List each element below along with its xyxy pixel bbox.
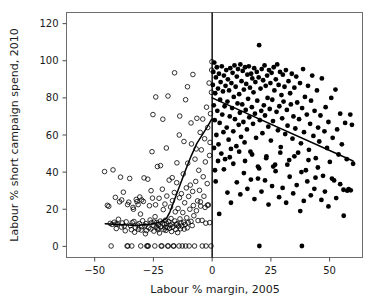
data-point [326, 204, 331, 209]
data-point [263, 83, 268, 88]
data-point [294, 74, 299, 79]
data-point [286, 79, 291, 84]
data-point [327, 160, 332, 165]
data-point [259, 108, 264, 113]
data-point [277, 195, 282, 200]
data-point [313, 156, 318, 161]
data-point [323, 105, 328, 110]
data-point [306, 83, 311, 88]
data-point [282, 84, 287, 89]
data-point [239, 79, 244, 84]
data-point [230, 70, 235, 75]
data-point [329, 95, 334, 100]
data-point [249, 105, 254, 110]
data-point [315, 88, 320, 93]
data-point [313, 175, 318, 180]
data-point [270, 97, 275, 102]
data-point [298, 209, 303, 214]
data-point [338, 182, 343, 187]
data-point [216, 86, 221, 91]
data-point [295, 100, 300, 105]
y-tick-label: 0 [52, 241, 58, 252]
data-point [213, 168, 218, 173]
data-point [234, 144, 239, 149]
data-point [221, 130, 226, 135]
data-point [321, 173, 326, 178]
data-point [228, 66, 233, 71]
y-axis-title: Labour % short campaign spend, 2010 [8, 28, 21, 241]
data-point [255, 98, 260, 103]
data-point [299, 244, 304, 249]
data-point [243, 159, 248, 164]
data-point [225, 190, 230, 195]
data-point [217, 211, 222, 216]
data-point [212, 118, 217, 123]
data-point [348, 112, 353, 117]
data-point [263, 113, 268, 118]
data-point [281, 99, 286, 104]
data-point [256, 75, 261, 80]
data-point [330, 176, 335, 181]
data-point [350, 122, 355, 127]
data-point [234, 74, 239, 79]
data-point [304, 112, 309, 117]
data-point [302, 130, 307, 135]
data-point [301, 198, 306, 203]
y-tick-label: 100 [39, 55, 58, 66]
data-point [279, 93, 284, 98]
y-tick-label: 40 [46, 167, 59, 178]
data-point [335, 127, 340, 132]
data-point [221, 89, 226, 94]
data-point [217, 71, 222, 76]
data-point [348, 188, 353, 193]
data-point [231, 129, 236, 134]
data-point [306, 158, 311, 163]
data-point [296, 150, 301, 155]
data-point [310, 73, 315, 78]
data-point [284, 108, 289, 113]
data-point [300, 106, 305, 111]
data-point [235, 101, 240, 106]
data-point [234, 180, 239, 185]
data-point [260, 131, 265, 136]
data-point [224, 125, 229, 130]
data-point [223, 157, 228, 162]
x-tick-label: −50 [84, 265, 105, 276]
data-point [253, 80, 258, 85]
data-point [227, 114, 232, 119]
data-point [280, 116, 285, 121]
data-point [213, 91, 218, 96]
data-point [291, 114, 296, 119]
x-tick-label: 0 [209, 265, 215, 276]
data-point [299, 170, 304, 175]
data-point [268, 138, 273, 143]
data-point [227, 155, 232, 160]
data-point [259, 189, 264, 194]
data-point [318, 113, 323, 118]
data-point [275, 62, 280, 67]
data-point [312, 108, 317, 113]
data-point [215, 108, 220, 113]
data-point [267, 107, 272, 112]
data-point [254, 69, 259, 74]
data-point [274, 109, 279, 114]
data-point [216, 159, 221, 164]
data-point [293, 126, 298, 131]
data-point [218, 80, 223, 85]
data-point [303, 95, 308, 100]
data-point [232, 63, 237, 68]
data-point [240, 102, 245, 107]
data-point [231, 95, 236, 100]
x-axis-title: Labour % margin, 2005 [150, 283, 279, 296]
data-point [227, 88, 232, 93]
data-point [292, 85, 297, 90]
data-point [315, 165, 320, 170]
data-point [285, 162, 290, 167]
data-point [249, 71, 254, 76]
data-point [284, 200, 289, 205]
data-point [291, 191, 296, 196]
data-point [263, 178, 268, 183]
chart-canvas: 020406080100120 −50−2502550 Labour % sho… [0, 0, 379, 302]
data-point [264, 156, 269, 161]
data-point [245, 186, 250, 191]
